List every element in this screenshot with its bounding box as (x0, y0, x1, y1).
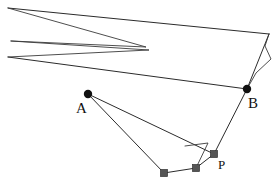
edge-B-to-P (214, 89, 247, 154)
outer-lower-left-edge (8, 57, 247, 89)
point-p-marker (211, 151, 218, 158)
outer-upper-edge (8, 8, 269, 34)
point-a-label: A (76, 101, 87, 116)
left-zigzag-lower (8, 41, 149, 57)
left-zigzag-upper (8, 8, 146, 47)
point-b-marker (243, 85, 251, 93)
chain-A-to-R (88, 94, 164, 173)
chain-R-Q-P (164, 154, 214, 173)
point-r-marker (161, 170, 168, 177)
point-q-marker (193, 165, 200, 172)
point-b-label: B (248, 96, 258, 111)
right-edge-to-B (247, 34, 269, 89)
point-p-label: P (218, 158, 225, 171)
point-a-marker (84, 90, 92, 98)
geometry-diagram: A B P (0, 0, 276, 187)
geometry-canvas (0, 0, 276, 187)
